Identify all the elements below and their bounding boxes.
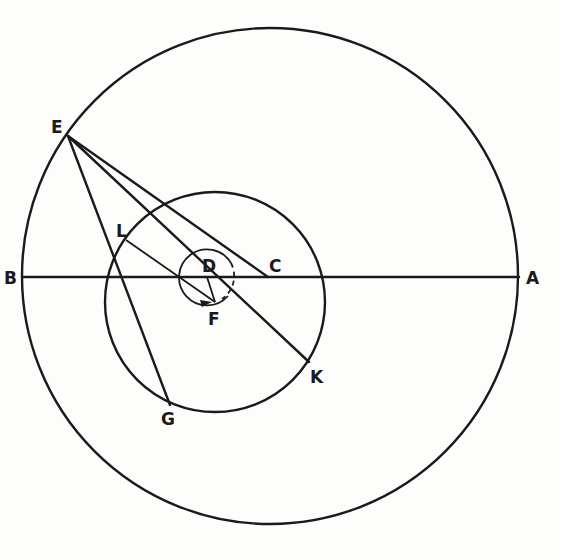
line-EC xyxy=(68,136,268,277)
label-E: E xyxy=(51,117,63,137)
label-K: K xyxy=(310,367,324,387)
label-A: A xyxy=(526,268,540,288)
geometry-diagram: A B C D E F G K L xyxy=(0,0,561,558)
label-B: B xyxy=(4,268,17,288)
label-G: G xyxy=(161,409,175,429)
label-D: D xyxy=(202,256,216,276)
line-EG xyxy=(68,136,170,405)
label-F: F xyxy=(208,309,220,329)
label-C: C xyxy=(269,256,281,276)
label-L: L xyxy=(116,221,127,241)
line-EK xyxy=(68,136,309,362)
